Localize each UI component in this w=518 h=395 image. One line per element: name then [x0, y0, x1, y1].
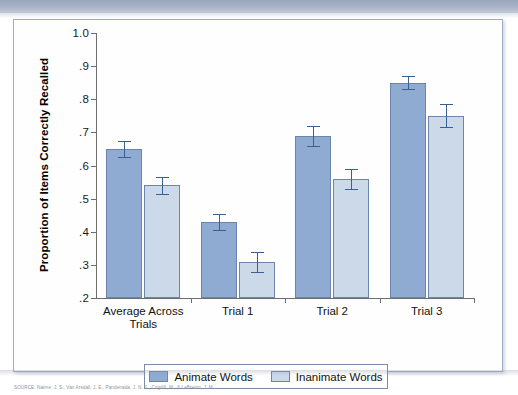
- error-bar-cap-lower: [307, 146, 320, 147]
- banner-fade: [0, 13, 518, 18]
- y-tick-label: .6: [79, 160, 89, 172]
- y-tick-label: .2: [79, 292, 89, 304]
- x-tick: [380, 298, 381, 303]
- y-tick: [91, 166, 96, 167]
- error-bar-line: [446, 104, 447, 127]
- error-bar-cap-upper: [213, 214, 226, 215]
- y-tick-label: .7: [79, 126, 89, 138]
- y-axis-line: [96, 33, 97, 299]
- y-tick-label: .3: [79, 259, 89, 271]
- error-bar-cap-lower: [345, 189, 358, 190]
- bar-animate-1: [201, 222, 237, 298]
- y-tick: [91, 298, 96, 299]
- x-axis-label-2: Trial 2: [285, 305, 380, 318]
- y-tick: [91, 33, 96, 34]
- y-tick: [91, 66, 96, 67]
- error-bar-line: [219, 214, 220, 231]
- y-tick: [91, 199, 96, 200]
- bar-inanimate-2: [333, 179, 369, 298]
- error-bar-cap-lower: [440, 127, 453, 128]
- plot-area: 1.0.9.8.7.6.5.4.3.2 Average Across Trial…: [96, 33, 474, 311]
- x-tick: [191, 298, 192, 303]
- y-tick-label: .5: [79, 193, 89, 205]
- error-bar-cap-lower: [251, 272, 264, 273]
- y-axis-title: Proportion of Items Correctly Recalled: [38, 0, 50, 39]
- x-axis-label-3: Trial 3: [380, 305, 475, 318]
- x-tick: [474, 298, 475, 303]
- bar-animate-2: [295, 136, 331, 298]
- source-caption: SOURCE: Nairne, J. S., Van Arsdall, J. E…: [14, 385, 484, 390]
- y-tick-label: 1.0: [72, 27, 89, 39]
- chart-frame: Proportion of Items Correctly Recalled 1…: [13, 19, 503, 372]
- x-axis-label-1: Trial 1: [191, 305, 286, 318]
- error-bar-line: [124, 141, 125, 158]
- error-bar-line: [257, 252, 258, 272]
- bar-animate-0: [106, 149, 142, 298]
- error-bar-line: [351, 169, 352, 189]
- error-bar-cap-upper: [345, 169, 358, 170]
- error-bar-cap-upper: [440, 104, 453, 105]
- error-bar-cap-lower: [402, 89, 415, 90]
- top-decorative-banner: [0, 0, 518, 13]
- error-bar-cap-upper: [307, 126, 320, 127]
- y-tick: [91, 99, 96, 100]
- error-bar-cap-lower: [213, 230, 226, 231]
- x-tick: [285, 298, 286, 303]
- bar-inanimate-3: [428, 116, 464, 298]
- y-tick-label: .4: [79, 226, 89, 238]
- error-bar-cap-upper: [402, 76, 415, 77]
- x-axis-label-0: Average Across Trials: [96, 305, 191, 331]
- error-bar-cap-upper: [251, 252, 264, 253]
- error-bar-cap-upper: [156, 177, 169, 178]
- error-bar-line: [408, 76, 409, 89]
- y-tick: [91, 132, 96, 133]
- error-bar-cap-upper: [118, 141, 131, 142]
- y-axis-title-text: Proportion of Items Correctly Recalled: [38, 39, 50, 291]
- y-tick-label: .9: [79, 60, 89, 72]
- bar-animate-3: [390, 83, 426, 298]
- error-bar-cap-lower: [156, 194, 169, 195]
- error-bar-cap-lower: [118, 157, 131, 158]
- error-bar-line: [313, 126, 314, 146]
- error-bar-line: [162, 177, 163, 194]
- bar-inanimate-0: [144, 185, 180, 298]
- y-tick-label: .8: [79, 93, 89, 105]
- scan-shadow: [0, 370, 518, 376]
- y-tick: [91, 232, 96, 233]
- y-tick: [91, 265, 96, 266]
